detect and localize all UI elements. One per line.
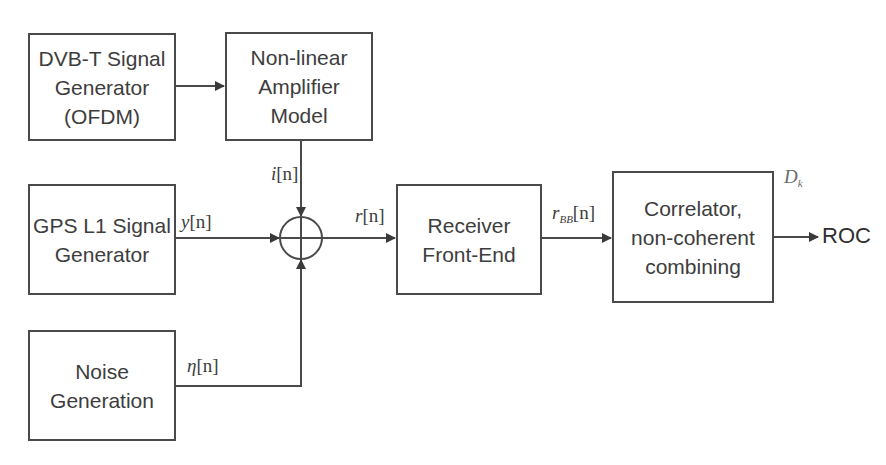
signal-label-y: y[n]: [181, 211, 212, 233]
block-label: Noise: [75, 357, 129, 386]
gps-l1-generator-block: GPS L1 Signal Generator: [28, 184, 176, 295]
block-label: Correlator,: [644, 194, 742, 223]
block-diagram: DVB-T Signal Generator (OFDM) Non-linear…: [0, 0, 886, 465]
signal-label-i: i[n]: [271, 163, 298, 185]
block-label: Receiver: [428, 211, 511, 240]
receiver-front-end-block: Receiver Front-End: [396, 184, 542, 295]
block-label: Front-End: [422, 240, 515, 269]
block-label: DVB-T Signal: [39, 44, 166, 73]
block-label: (OFDM): [64, 102, 140, 131]
block-label: non-coherent: [631, 223, 755, 252]
signal-label-r: r[n]: [355, 205, 385, 227]
block-label: Generation: [50, 386, 154, 415]
nonlinear-amplifier-block: Non-linear Amplifier Model: [225, 32, 373, 141]
correlator-block: Correlator, non-coherent combining: [612, 171, 774, 303]
roc-output-label: ROC: [822, 223, 871, 249]
noise-generation-block: Noise Generation: [28, 330, 176, 441]
block-label: combining: [645, 252, 741, 281]
block-label: GPS L1 Signal: [33, 211, 171, 240]
block-label: Generator: [55, 73, 150, 102]
dvbt-generator-block: DVB-T Signal Generator (OFDM): [28, 33, 176, 141]
block-label: Non-linear: [251, 43, 348, 72]
signal-label-dk: Dk: [784, 166, 803, 189]
block-label: Generator: [55, 240, 150, 269]
block-label: Amplifier: [258, 72, 340, 101]
block-label: Model: [270, 101, 327, 130]
signal-label-rbb: rBB[n]: [552, 202, 595, 225]
signal-label-eta: η[n]: [187, 355, 219, 377]
